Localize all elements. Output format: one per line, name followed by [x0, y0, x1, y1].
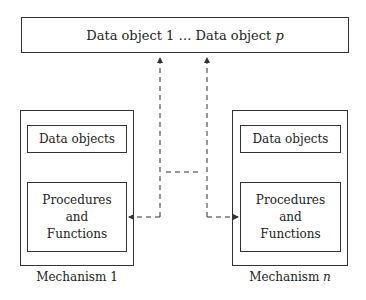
- connector-lines: [0, 0, 366, 300]
